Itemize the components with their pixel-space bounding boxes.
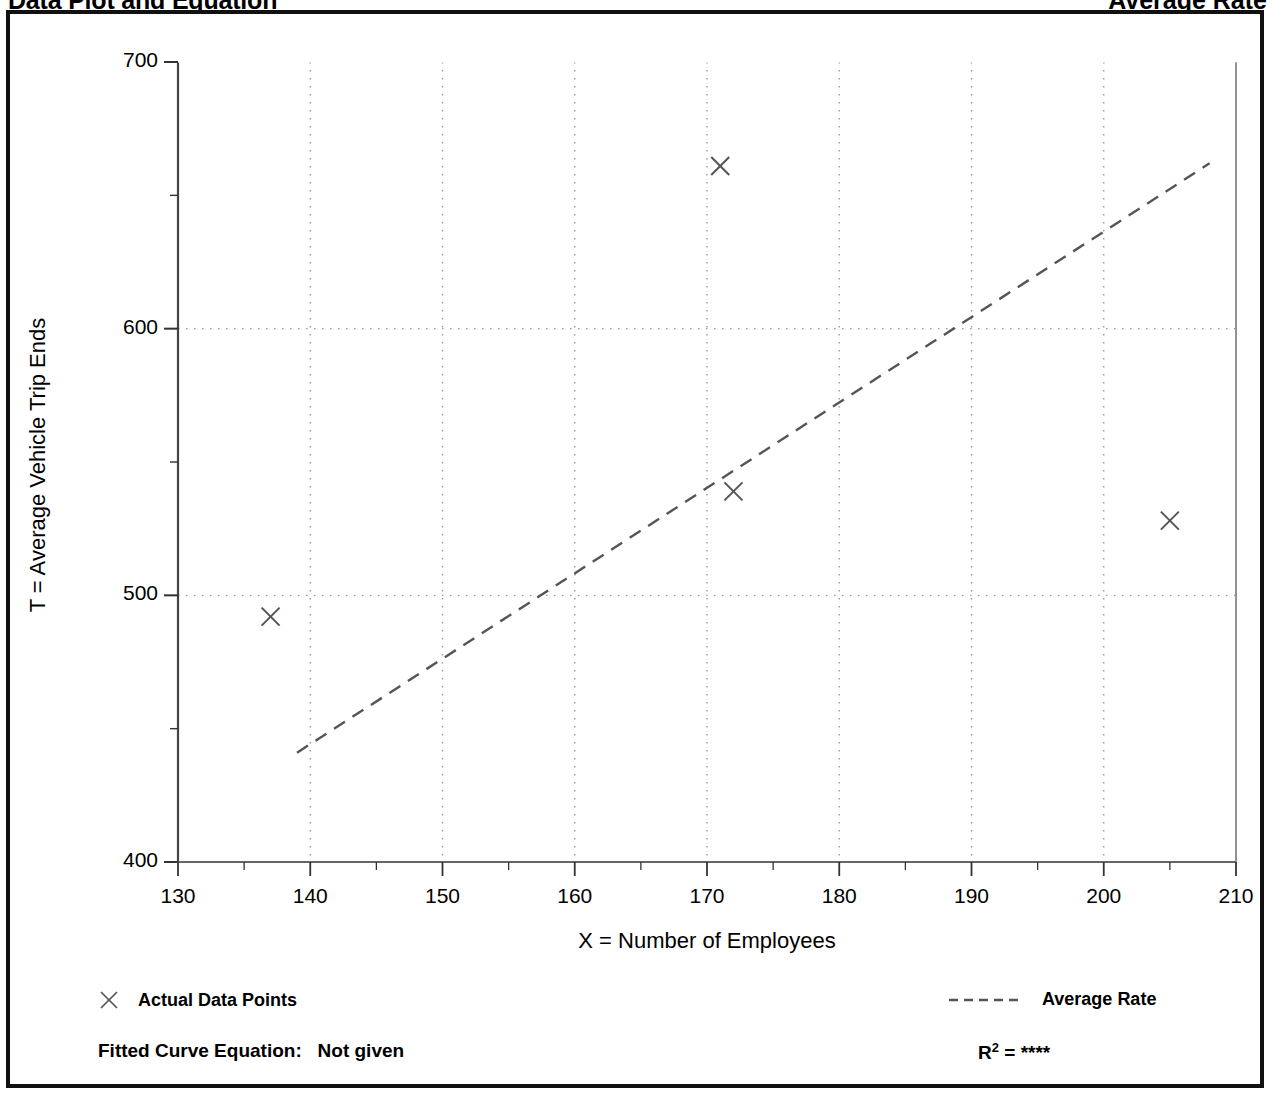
x-tick-label: 170	[667, 884, 747, 908]
x-tick-label: 130	[138, 884, 218, 908]
x-tick-label: 180	[799, 884, 879, 908]
y-tick-label: 700	[88, 48, 158, 72]
r-squared-number: ****	[1021, 1042, 1051, 1063]
r-squared-exponent: 2	[992, 1040, 999, 1055]
legend-label-average-rate: Average Rate	[1042, 989, 1156, 1010]
y-axis-title: T = Average Vehicle Trip Ends	[25, 255, 51, 675]
x-tick-label: 160	[535, 884, 615, 908]
x-tick-label: 210	[1196, 884, 1276, 908]
x-tick-label: 190	[932, 884, 1012, 908]
chart-container: T = Average Vehicle Trip Ends X = Number…	[0, 0, 1277, 1094]
fitted-curve-equation: Fitted Curve Equation: Not given	[98, 1040, 404, 1062]
dashed-line-icon	[948, 995, 1024, 1005]
x-tick-label: 140	[270, 884, 350, 908]
y-tick-label: 400	[88, 848, 158, 872]
legend-average-rate: Average Rate	[948, 989, 1156, 1010]
legend-actual-data-points: Actual Data Points	[98, 989, 297, 1011]
x-tick-label: 200	[1064, 884, 1144, 908]
r-squared-value: R2 = ****	[978, 1040, 1050, 1064]
x-axis-ticks	[178, 862, 1236, 876]
r-squared-label: R	[978, 1042, 992, 1063]
r-squared-equals: =	[1004, 1042, 1015, 1063]
x-tick-label: 150	[403, 884, 483, 908]
y-tick-label: 600	[88, 315, 158, 339]
fitted-curve-equation-label: Fitted Curve Equation:	[98, 1040, 302, 1061]
x-marker-icon	[98, 989, 120, 1011]
y-tick-label: 500	[88, 581, 158, 605]
x-axis-title: X = Number of Employees	[178, 928, 1236, 954]
y-axis-ticks	[164, 62, 178, 862]
legend-label-actual-data-points: Actual Data Points	[138, 990, 297, 1011]
chart-page: Data Plot and Equation Average Rate	[0, 0, 1277, 1094]
fitted-curve-equation-value: Not given	[318, 1040, 405, 1061]
